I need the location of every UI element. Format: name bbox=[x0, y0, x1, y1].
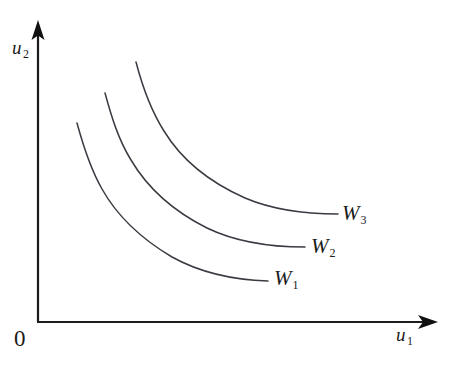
curve-label-w2: W2 bbox=[311, 236, 336, 259]
welfare-curve-w3 bbox=[136, 62, 338, 214]
curve-label-w3-text: W bbox=[342, 201, 360, 225]
curve-label-w2-text: W bbox=[311, 234, 329, 258]
origin-label: 0 bbox=[14, 327, 26, 350]
y-axis-label: u2 bbox=[12, 38, 29, 60]
curve-label-w3-subscript: 3 bbox=[360, 213, 367, 227]
curve-label-w1: W1 bbox=[274, 268, 299, 291]
welfare-curve-w2 bbox=[105, 93, 305, 247]
x-axis-label: u1 bbox=[396, 325, 413, 347]
curve-label-w1-subscript: 1 bbox=[292, 278, 299, 292]
figure-canvas bbox=[0, 0, 456, 370]
curve-label-w1-text: W bbox=[274, 266, 292, 290]
welfare-curve-w1 bbox=[77, 123, 268, 281]
x-axis-label-subscript: 1 bbox=[406, 334, 414, 348]
y-axis-label-text: u bbox=[12, 37, 22, 58]
x-axis-label-text: u bbox=[396, 324, 406, 345]
curve-label-w2-subscript: 2 bbox=[329, 246, 336, 260]
welfare-contours-figure: u2 u1 0 W3 W2 W1 bbox=[0, 0, 456, 370]
y-axis-label-subscript: 2 bbox=[22, 47, 30, 61]
curve-label-w3: W3 bbox=[342, 203, 367, 226]
